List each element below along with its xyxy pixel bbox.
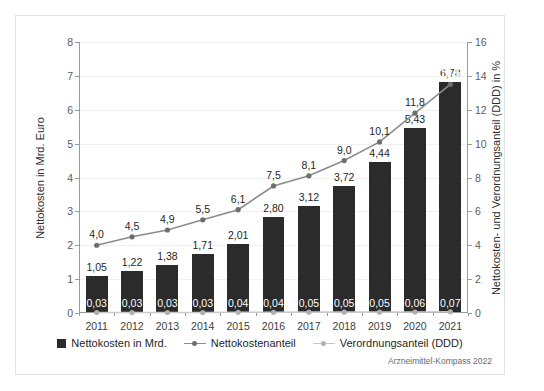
y-axis-right-tick-label: 14 <box>475 71 487 82</box>
bar: 3,72 <box>333 186 355 312</box>
x-axis-tick-mark <box>468 313 469 316</box>
bar-value-label: 5,43 <box>405 113 425 125</box>
gridline <box>79 110 468 111</box>
bar-value-label: 1,38 <box>157 250 177 262</box>
legend-item[interactable]: Nettokosten in Mrd. <box>57 337 166 349</box>
y-axis-right-tick-mark <box>468 76 472 77</box>
x-axis-tick-label: 2020 <box>403 320 426 332</box>
data-point-marker <box>200 217 205 222</box>
line-value-label: 4,9 <box>160 213 175 225</box>
data-point-marker <box>342 158 347 163</box>
y-axis-left-tick-mark <box>75 110 79 111</box>
y-axis-left-line <box>79 42 80 313</box>
y-axis-left-tick-label: 1 <box>67 274 73 285</box>
bar-value-label: 1,71 <box>193 239 213 251</box>
bar: 1,38 <box>156 265 178 312</box>
y-axis-left-tick-label: 4 <box>67 173 73 184</box>
legend-item[interactable]: Verordnungsanteil (DDD) <box>313 337 463 349</box>
x-axis-tick-mark <box>150 313 151 316</box>
y-axis-left-tick-mark <box>75 178 79 179</box>
y-axis-left-tick-label: 6 <box>67 105 73 116</box>
x-axis-line <box>79 312 468 313</box>
chart-legend: Nettokosten in Mrd.NettokostenanteilVero… <box>16 337 504 349</box>
gridline <box>79 76 468 77</box>
bar-value-label: 2,01 <box>228 229 248 241</box>
legend-line-marker-icon <box>184 339 206 348</box>
y-axis-right-tick-label: 6 <box>475 206 481 217</box>
x-axis-tick-label: 2012 <box>120 320 143 332</box>
data-point-marker <box>271 183 276 188</box>
y-axis-left-tick-mark <box>75 76 79 77</box>
y-axis-right-tick-label: 8 <box>475 173 481 184</box>
y-axis-right-tick-mark <box>468 42 472 43</box>
legend-label: Nettokostenanteil <box>211 337 296 349</box>
y-axis-left-tick-mark <box>75 144 79 145</box>
y-axis-right-tick-mark <box>468 279 472 280</box>
line-value-label: 9,0 <box>337 144 352 156</box>
data-point-marker <box>129 234 134 239</box>
y-axis-right-tick-label: 12 <box>475 105 487 116</box>
bar: 4,44 <box>369 162 391 312</box>
x-axis-tick-mark <box>433 313 434 316</box>
bar: 5,43 <box>404 128 426 312</box>
gridline <box>79 42 468 43</box>
line-value-label: 7,5 <box>266 169 281 181</box>
x-axis-tick-label: 2018 <box>333 320 356 332</box>
y-axis-left-tick-mark <box>75 42 79 43</box>
x-axis-tick-mark <box>114 313 115 316</box>
x-axis-tick-mark <box>256 313 257 316</box>
y-axis-right-tick-mark <box>468 178 472 179</box>
line-value-label: 6,1 <box>231 193 246 205</box>
x-axis-tick-mark <box>397 313 398 316</box>
data-point-marker <box>165 227 170 232</box>
y-axis-left-tick-mark <box>75 279 79 280</box>
y-axis-left-tick-label: 2 <box>67 240 73 251</box>
bar-value-label: 2,80 <box>263 202 283 214</box>
line-value-label: 8,1 <box>302 159 317 171</box>
bar-value-label: 4,44 <box>369 147 389 159</box>
x-axis-tick-label: 2014 <box>191 320 214 332</box>
bar: 1,22 <box>121 271 143 312</box>
x-axis-tick-label: 2013 <box>156 320 179 332</box>
y-axis-left-tick-label: 7 <box>67 71 73 82</box>
bar: 1,05 <box>86 276 108 312</box>
bar-value-label: 3,72 <box>334 171 354 183</box>
y-axis-left-tick-label: 3 <box>67 206 73 217</box>
bar-value-label: 6,78 <box>440 67 460 79</box>
line-value-label: 5,5 <box>195 203 210 215</box>
y-axis-left-tick-mark <box>75 211 79 212</box>
x-axis-tick-mark <box>327 313 328 316</box>
bar: 6,78 <box>439 82 461 312</box>
x-axis-tick-label: 2017 <box>297 320 320 332</box>
y-axis-left-tick-mark <box>75 245 79 246</box>
y-axis-left-title: Nettokosten in Mrd. Euro <box>32 42 48 313</box>
y-axis-right-tick-label: 0 <box>475 308 481 319</box>
y-axis-left-tick-label: 5 <box>67 139 73 150</box>
y-axis-left-tick-label: 8 <box>67 37 73 48</box>
legend-square-icon <box>57 339 66 348</box>
x-axis-tick-mark <box>79 313 80 316</box>
x-axis-tick-label: 2021 <box>439 320 462 332</box>
bar: 3,12 <box>298 206 320 312</box>
line-value-label: 10,1 <box>369 125 389 137</box>
source-note: Arzneimittel-Kompass 2022 <box>388 356 492 366</box>
y-axis-right-tick-label: 2 <box>475 274 481 285</box>
x-axis-tick-mark <box>220 313 221 316</box>
bar-value-label: 1,22 <box>122 256 142 268</box>
x-axis-tick-mark <box>291 313 292 316</box>
y-axis-right-tick-mark <box>468 110 472 111</box>
y-axis-right-tick-label: 4 <box>475 240 481 251</box>
bar-value-label: 1,05 <box>86 261 106 273</box>
x-axis-tick-label: 2016 <box>262 320 285 332</box>
legend-item[interactable]: Nettokostenanteil <box>184 337 296 349</box>
line-value-label: 4,0 <box>89 228 104 240</box>
y-axis-right-tick-label: 16 <box>475 37 487 48</box>
legend-label: Nettokosten in Mrd. <box>71 337 166 349</box>
x-axis-tick-label: 2011 <box>85 320 108 332</box>
y-axis-left-tick-label: 0 <box>67 308 73 319</box>
x-axis-tick-mark <box>362 313 363 316</box>
line-value-label: 11,8 <box>405 96 425 108</box>
y-axis-right-tick-label: 10 <box>475 139 487 150</box>
x-axis-tick-mark <box>185 313 186 316</box>
x-axis-tick-label: 2015 <box>226 320 249 332</box>
